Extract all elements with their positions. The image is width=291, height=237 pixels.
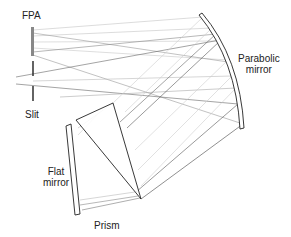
flat-label-line2: mirror — [43, 177, 69, 188]
fpa-label: FPA — [22, 10, 41, 21]
flat-label-line1: Flat — [43, 166, 69, 177]
slit-label: Slit — [25, 109, 39, 120]
parabolic-mirror-label: Parabolic mirror — [238, 53, 280, 75]
flat-mirror-label: Flat mirror — [43, 166, 69, 188]
optical-diagram — [0, 0, 291, 237]
parabolic-label-line1: Parabolic — [238, 53, 280, 64]
prism — [76, 103, 141, 199]
prism-label: Prism — [94, 220, 120, 231]
parabolic-label-line2: mirror — [238, 64, 280, 75]
fpa-detector — [31, 27, 34, 56]
